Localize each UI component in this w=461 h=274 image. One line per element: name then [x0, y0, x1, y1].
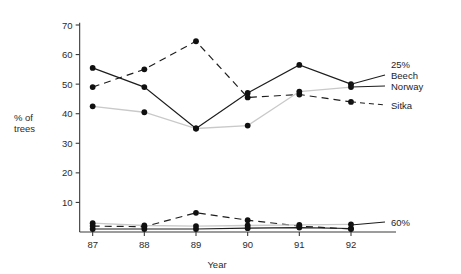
data-point-marker [90, 65, 96, 71]
x-tick-label: 91 [294, 239, 305, 250]
line-chart: 10203040506070 878889909192 % of trees Y… [0, 0, 461, 274]
legend-leader-line [351, 222, 385, 225]
series-line-sitka-60pct [93, 223, 351, 226]
x-tick-label: 92 [346, 239, 357, 250]
data-point-marker [193, 126, 199, 132]
legend-leader-line [351, 86, 385, 87]
y-tick-label: 20 [62, 167, 73, 178]
series-line-norway-60pct [93, 213, 351, 229]
x-axis-title: Year [207, 259, 226, 270]
y-axis-tick-labels: 10203040506070 [62, 20, 73, 208]
data-point-marker [245, 217, 251, 223]
series-line-beech-60pct [93, 228, 351, 229]
x-tick-label: 87 [87, 239, 98, 250]
y-tick-label: 30 [62, 138, 73, 149]
legend-label-60pct: 60% [391, 217, 411, 228]
y-tick-label: 40 [62, 108, 73, 119]
legend-label-25pct: 25% [391, 59, 411, 70]
data-point-marker [245, 223, 251, 229]
data-point-marker [141, 84, 147, 90]
data-point-marker [141, 66, 147, 72]
legend-leader-line [351, 102, 385, 105]
data-point-marker [90, 220, 96, 226]
data-point-marker [296, 89, 302, 95]
legend-leader-line [351, 75, 385, 84]
data-point-marker [296, 222, 302, 228]
chart-series-group [93, 41, 351, 229]
data-point-marker [90, 103, 96, 109]
data-point-marker [193, 223, 199, 229]
data-point-marker [193, 210, 199, 216]
legend-label-norway: Norway [391, 81, 423, 92]
data-point-marker [141, 109, 147, 115]
x-tick-label: 89 [191, 239, 202, 250]
series-line-norway-25pct [93, 41, 351, 102]
data-point-marker [141, 223, 147, 229]
legend-label-sitka: Sitka [391, 100, 413, 111]
legend-label-beech: Beech [391, 70, 418, 81]
chart-markers-group [90, 38, 354, 232]
data-point-marker [245, 123, 251, 129]
series-line-sitka-25pct [93, 87, 351, 128]
y-tick-label: 70 [62, 20, 73, 31]
chart-figure: 10203040506070 878889909192 % of trees Y… [0, 0, 461, 274]
x-tick-label: 88 [139, 239, 150, 250]
y-axis-title-line2: trees [14, 123, 35, 134]
data-point-marker [90, 84, 96, 90]
x-axis-tick-labels: 878889909192 [87, 239, 356, 250]
y-tick-label: 50 [62, 79, 73, 90]
legend-leader-lines [351, 75, 385, 225]
y-tick-label: 10 [62, 197, 73, 208]
x-tick-label: 90 [242, 239, 253, 250]
y-tick-label: 60 [62, 49, 73, 60]
data-point-marker [296, 62, 302, 68]
data-point-marker [245, 95, 251, 101]
data-point-marker [193, 38, 199, 44]
chart-axes [76, 23, 396, 236]
y-axis-title-line1: % of [14, 112, 33, 123]
